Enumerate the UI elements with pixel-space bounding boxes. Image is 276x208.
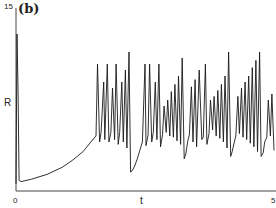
- x-tick-start: 0: [13, 196, 17, 205]
- panel-label: (b): [18, 1, 39, 16]
- y-tick-top: 15: [4, 2, 13, 11]
- series-line-r: [16, 34, 274, 184]
- chart-plot: [0, 0, 276, 208]
- y-axis-label: R: [4, 97, 11, 108]
- x-tick-end: 5: [271, 196, 275, 205]
- x-axis-label: t: [140, 195, 143, 206]
